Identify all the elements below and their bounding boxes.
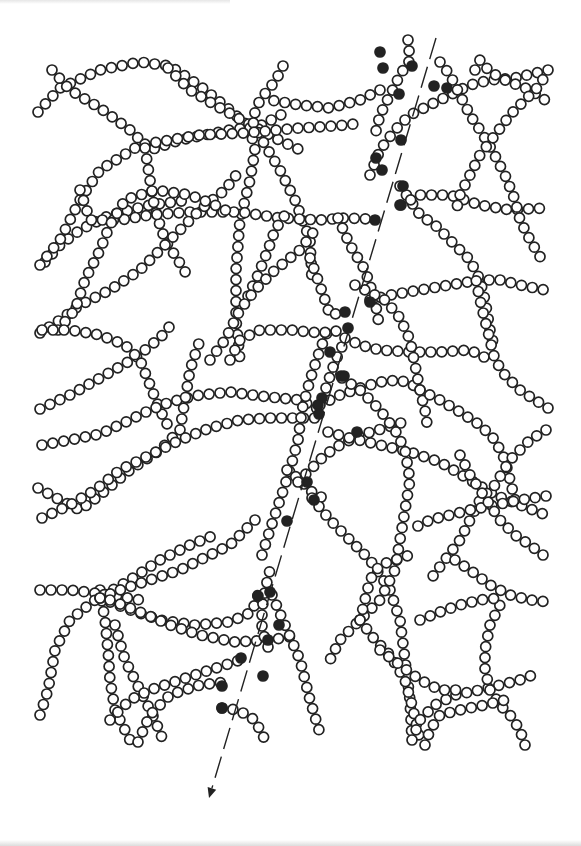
- bead: [103, 474, 113, 484]
- bead: [254, 98, 264, 108]
- caption-bottom-cropped: [0, 840, 581, 846]
- bead: [449, 465, 459, 475]
- bead: [323, 427, 333, 437]
- bead: [178, 564, 188, 574]
- bead: [273, 220, 283, 230]
- bead: [452, 201, 462, 211]
- bead: [505, 678, 515, 688]
- bead: [403, 331, 413, 341]
- bead: [225, 355, 235, 365]
- bead: [323, 103, 333, 113]
- bead: [190, 350, 200, 360]
- bead: [111, 155, 121, 165]
- bead: [146, 561, 156, 571]
- bead: [277, 413, 287, 423]
- bead: [92, 329, 102, 339]
- bead: [205, 532, 215, 542]
- bead: [315, 122, 325, 132]
- bead: [385, 131, 395, 141]
- bead: [285, 630, 295, 640]
- bead: [348, 119, 358, 129]
- bead: [191, 670, 201, 680]
- bead: [191, 429, 201, 439]
- bead: [231, 171, 241, 181]
- bead: [472, 686, 482, 696]
- bead: [478, 77, 488, 87]
- bead: [157, 331, 167, 341]
- bead: [37, 513, 47, 523]
- bead: [70, 434, 80, 444]
- bead: [355, 615, 365, 625]
- bead: [140, 143, 150, 153]
- bead: [248, 155, 258, 165]
- bead: [173, 134, 183, 144]
- bead: [254, 325, 264, 335]
- bead: [33, 107, 43, 117]
- bead: [245, 177, 255, 187]
- bead: [499, 695, 509, 705]
- bead: [40, 99, 50, 109]
- bead: [429, 455, 439, 465]
- bead: [406, 195, 416, 205]
- bead: [137, 567, 147, 577]
- bead: [465, 470, 475, 480]
- bead: [217, 544, 227, 554]
- bead: [138, 727, 148, 737]
- bead: [264, 147, 274, 157]
- bead: [419, 452, 429, 462]
- polymer-chain: [95, 515, 260, 603]
- bead: [495, 471, 505, 481]
- chain-end-bead: [325, 347, 335, 357]
- bead: [130, 350, 140, 360]
- bead: [482, 63, 492, 73]
- bead: [110, 620, 120, 630]
- bead: [194, 130, 204, 140]
- bead: [498, 499, 508, 509]
- bead: [534, 203, 544, 213]
- bead: [441, 281, 451, 291]
- bead: [431, 221, 441, 231]
- bead: [355, 385, 365, 395]
- bead: [375, 425, 385, 435]
- bead: [166, 620, 176, 630]
- bead: [385, 418, 395, 428]
- bead: [373, 314, 383, 324]
- bead: [68, 585, 78, 595]
- bead: [480, 425, 490, 435]
- bead: [395, 616, 405, 626]
- bead: [170, 437, 180, 447]
- bead: [190, 192, 200, 202]
- bead: [494, 442, 504, 452]
- bead: [491, 70, 501, 80]
- bead: [486, 580, 496, 590]
- bead: [121, 149, 131, 159]
- bead: [344, 627, 354, 637]
- bead: [494, 360, 504, 370]
- bead: [414, 208, 424, 218]
- bead: [468, 262, 478, 272]
- bead: [423, 516, 433, 526]
- bead: [489, 351, 499, 361]
- bead: [106, 63, 116, 73]
- bead: [47, 65, 57, 75]
- bead: [217, 188, 227, 198]
- bead: [278, 487, 288, 497]
- bead: [471, 276, 481, 286]
- bead: [392, 606, 402, 616]
- bead: [185, 540, 195, 550]
- bead: [90, 292, 100, 302]
- bead: [470, 65, 480, 75]
- bead: [403, 490, 413, 500]
- bead: [334, 101, 344, 111]
- chain-end-bead: [263, 635, 273, 645]
- bead: [409, 353, 419, 363]
- bead: [537, 509, 547, 519]
- bead: [509, 192, 519, 202]
- bead: [163, 209, 173, 219]
- bead: [45, 399, 55, 409]
- bead: [399, 649, 409, 659]
- bead: [428, 720, 438, 730]
- bead: [254, 722, 264, 732]
- bead: [358, 604, 368, 614]
- bead: [262, 578, 272, 588]
